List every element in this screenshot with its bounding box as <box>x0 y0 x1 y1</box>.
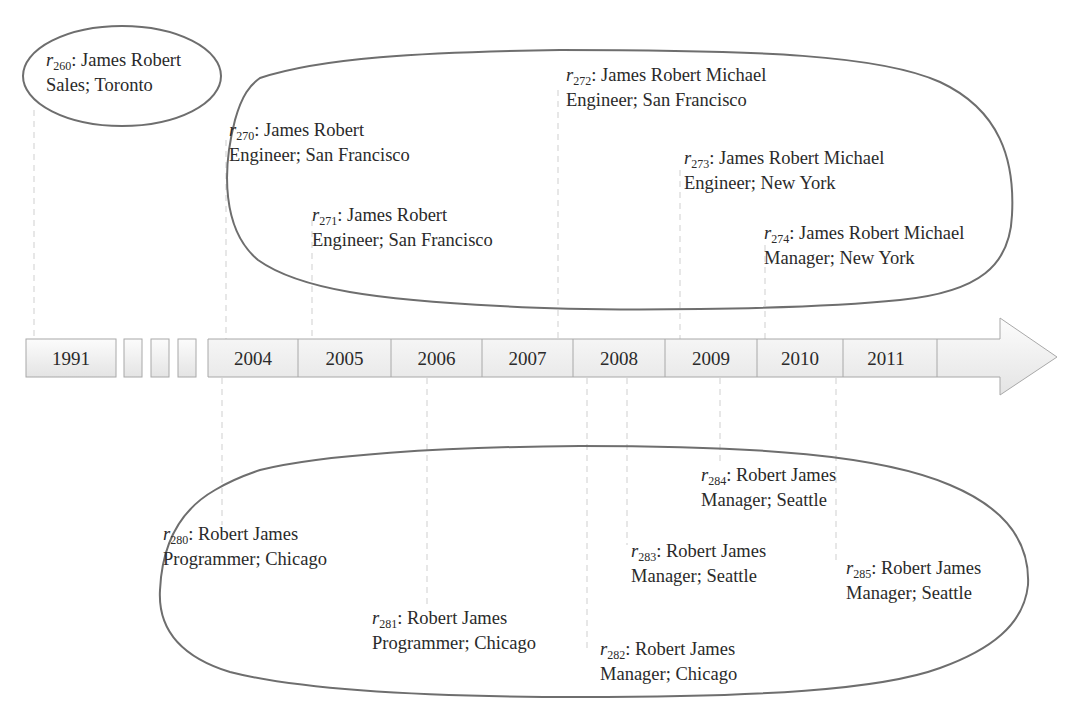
year-label-2007: 2007 <box>482 339 573 378</box>
record-detail: Manager; Seattle <box>846 581 981 606</box>
record-r281: r281: Robert James Programmer; Chicago <box>372 606 536 656</box>
record-detail: Engineer; San Francisco <box>566 88 766 113</box>
record-name: James Robert Michael <box>799 223 964 243</box>
record-id: r285 <box>846 558 871 578</box>
record-detail: Programmer; Chicago <box>372 631 536 656</box>
record-id: r270 <box>229 120 254 140</box>
record-name: James Robert Michael <box>719 148 884 168</box>
record-r285: r285: Robert James Manager; Seattle <box>846 556 981 606</box>
record-name: Robert James <box>407 608 507 628</box>
record-name: Robert James <box>635 639 735 659</box>
record-r270: r270: James Robert Engineer; San Francis… <box>229 118 410 168</box>
record-id: r273 <box>684 148 709 168</box>
record-r283: r283: Robert James Manager; Seattle <box>631 539 766 589</box>
record-name: Robert James <box>666 541 766 561</box>
gap-box <box>151 339 169 377</box>
record-id: r271 <box>312 205 337 225</box>
record-detail: Engineer; San Francisco <box>312 228 493 253</box>
record-r280: r280: Robert James Programmer; Chicago <box>163 522 327 572</box>
record-detail: Sales; Toronto <box>46 73 181 98</box>
record-r284: r284: Robert James Manager; Seattle <box>701 463 836 513</box>
record-id: r284 <box>701 465 726 485</box>
record-id: r281 <box>372 608 397 628</box>
record-name: Robert James <box>736 465 836 485</box>
record-detail: Manager; Chicago <box>600 662 737 687</box>
record-name: James Robert <box>81 50 181 70</box>
record-id: r272 <box>566 65 591 85</box>
record-r282: r282: Robert James Manager; Chicago <box>600 637 737 687</box>
year-label-1991: 1991 <box>26 339 116 378</box>
record-r271: r271: James Robert Engineer; San Francis… <box>312 203 493 253</box>
year-label-2008: 2008 <box>573 339 665 378</box>
year-label-2011: 2011 <box>843 339 929 378</box>
year-label-2009: 2009 <box>665 339 757 378</box>
record-name: James Robert Michael <box>601 65 766 85</box>
record-r260: r260: James Robert Sales; Toronto <box>46 48 181 98</box>
year-label-2010: 2010 <box>757 339 843 378</box>
gap-box <box>124 339 142 377</box>
record-detail: Manager; Seattle <box>701 488 836 513</box>
year-label-2006: 2006 <box>391 339 482 378</box>
gap-box <box>178 339 196 377</box>
record-r273: r273: James Robert Michael Engineer; New… <box>684 146 884 196</box>
record-detail: Manager; New York <box>764 246 964 271</box>
record-r274: r274: James Robert Michael Manager; New … <box>764 221 964 271</box>
record-id: r283 <box>631 541 656 561</box>
record-detail: Manager; Seattle <box>631 564 766 589</box>
record-detail: Engineer; San Francisco <box>229 143 410 168</box>
record-detail: Programmer; Chicago <box>163 547 327 572</box>
record-name: Robert James <box>881 558 981 578</box>
record-name: Robert James <box>198 524 298 544</box>
record-id: r260 <box>46 50 71 70</box>
record-name: James Robert <box>264 120 364 140</box>
year-label-2004: 2004 <box>208 339 298 378</box>
record-r272: r272: James Robert Michael Engineer; San… <box>566 63 766 113</box>
record-id: r274 <box>764 223 789 243</box>
year-label-2005: 2005 <box>298 339 391 378</box>
record-id: r282 <box>600 639 625 659</box>
record-name: James Robert <box>347 205 447 225</box>
record-detail: Engineer; New York <box>684 171 884 196</box>
record-id: r280 <box>163 524 188 544</box>
